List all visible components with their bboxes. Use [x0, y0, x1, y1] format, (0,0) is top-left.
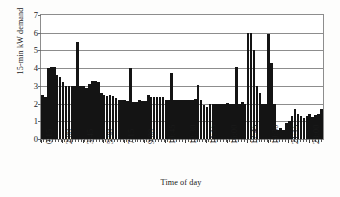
x-tick-label: 10:45 [168, 124, 177, 144]
x-tick-label: 3:45 [86, 129, 95, 144]
x-tick-mark [288, 140, 289, 143]
y-tick-mark [38, 68, 41, 69]
x-tick-mark [227, 140, 228, 143]
plot-area: 01234567 [40, 14, 324, 140]
x-tick-mark [41, 140, 42, 143]
x-tick-label: 12:30 [189, 124, 198, 144]
x-tick-label: 23:00 [312, 124, 321, 144]
y-axis-title: 15-min kW demand [14, 0, 28, 106]
x-tick-mark [124, 140, 125, 143]
x-tick-label: 14:15 [209, 124, 218, 144]
bar-series [41, 15, 323, 139]
y-tick-mark [38, 121, 41, 122]
y-tick-mark [38, 15, 41, 16]
x-tick-label: 21:15 [291, 124, 300, 144]
y-tick-mark [38, 50, 41, 51]
x-tick-label: 9:00 [147, 129, 156, 144]
y-tick-mark [38, 33, 41, 34]
x-tick-label: 19:30 [271, 124, 280, 144]
x-tick-mark [206, 140, 207, 143]
x-tick-label: 0:15 [45, 129, 54, 144]
x-tick-label: 7:15 [127, 129, 136, 144]
x-tick-mark [309, 140, 310, 143]
x-axis-title: Time of day [40, 178, 322, 187]
y-tick-mark [38, 86, 41, 87]
x-tick-label: 5:30 [106, 129, 115, 144]
chart-figure: 15-min kW demand 01234567 0:152:003:455:… [0, 0, 340, 197]
x-tick-mark [268, 140, 269, 143]
x-tick-mark [165, 140, 166, 143]
x-tick-mark [185, 140, 186, 143]
x-tick-label: 2:00 [65, 129, 74, 144]
x-tick-label: 16:00 [230, 124, 239, 144]
x-tick-label: 17:45 [250, 124, 259, 144]
x-tick-mark [144, 140, 145, 143]
x-tick-mark [247, 140, 248, 143]
x-tick-mark [83, 140, 84, 143]
x-tick-mark [62, 140, 63, 143]
x-tick-mark [103, 140, 104, 143]
x-axis-ticks: 0:152:003:455:307:159:0010:4512:3014:151… [40, 140, 322, 176]
y-tick-mark [38, 104, 41, 105]
